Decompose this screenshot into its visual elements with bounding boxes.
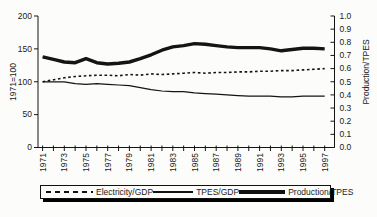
x-tick-label: 1987 bbox=[211, 153, 221, 172]
y-right-tick-label: 0.0 bbox=[340, 142, 352, 152]
right-axis-title: Production/TPES bbox=[361, 39, 371, 104]
legend-line-sample-thick bbox=[239, 190, 285, 194]
y-right-tick-label: 1.0 bbox=[340, 11, 352, 21]
y-left-tick-label: 200 bbox=[18, 11, 32, 21]
y-left-tick-label: 100 bbox=[18, 77, 32, 87]
x-tick-label: 1973 bbox=[59, 153, 69, 172]
x-tick-label: 1991 bbox=[255, 153, 265, 172]
x-tick-label: 1997 bbox=[320, 153, 330, 172]
left-axis-title: 1971=100 bbox=[8, 63, 18, 101]
x-tick-label: 1995 bbox=[298, 153, 308, 172]
legend-entry-electricity-gdp: Electricity/GDP bbox=[46, 187, 153, 197]
y-left-tick-label: 150 bbox=[18, 44, 32, 54]
series-line-tpes-gdp bbox=[43, 82, 325, 97]
y-right-tick-label: 0.1 bbox=[340, 129, 352, 139]
y-right-tick-label: 0.3 bbox=[340, 103, 352, 113]
y-right-tick-label: 0.4 bbox=[340, 90, 352, 100]
legend-line-sample-dashed bbox=[46, 191, 93, 193]
y-right-tick-label: 0.9 bbox=[340, 24, 352, 34]
x-tick-label: 1977 bbox=[103, 153, 113, 172]
y-right-tick-label: 0.5 bbox=[340, 77, 352, 87]
x-tick-label: 1983 bbox=[168, 153, 178, 172]
y-right-tick-label: 0.7 bbox=[340, 50, 352, 60]
x-tick-label: 1985 bbox=[190, 153, 200, 172]
y-right-tick-label: 0.6 bbox=[340, 63, 352, 73]
y-right-tick-label: 0.2 bbox=[340, 116, 352, 126]
series-line-production-tpes bbox=[43, 44, 325, 64]
x-tick-label: 1979 bbox=[124, 153, 134, 172]
x-tick-label: 1993 bbox=[276, 153, 286, 172]
x-tick-label: 1989 bbox=[233, 153, 243, 172]
chart-legend: Electricity/GDPTPES/GDPProduction/TPES bbox=[40, 185, 331, 199]
legend-line-sample-thin bbox=[153, 191, 193, 193]
y-left-tick-label: 50 bbox=[23, 109, 33, 119]
y-right-tick-label: 0.8 bbox=[340, 37, 352, 47]
x-tick-label: 1971 bbox=[38, 153, 48, 172]
x-tick-label: 1981 bbox=[146, 153, 156, 172]
series-line-electricity-gdp bbox=[43, 69, 325, 82]
legend-label: Electricity/GDP bbox=[96, 187, 153, 197]
legend-label: Production/TPES bbox=[288, 187, 353, 197]
legend-entry-production-tpes: Production/TPES bbox=[239, 187, 353, 197]
legend-entry-tpes-gdp: TPES/GDP bbox=[153, 187, 239, 197]
legend-label: TPES/GDP bbox=[196, 187, 239, 197]
chart-figure: 0501001502000.00.10.20.30.40.50.60.70.80… bbox=[0, 0, 377, 217]
y-left-tick-label: 0 bbox=[27, 142, 32, 152]
x-tick-label: 1975 bbox=[81, 153, 91, 172]
